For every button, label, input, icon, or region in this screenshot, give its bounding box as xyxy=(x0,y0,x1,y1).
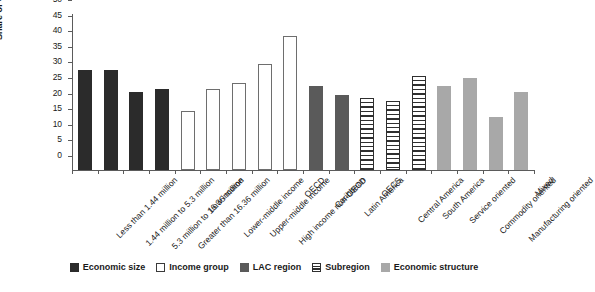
legend-label: LAC region xyxy=(253,262,302,272)
bar-slot xyxy=(155,14,169,170)
bar-slot xyxy=(129,14,143,170)
bar-slot xyxy=(489,14,503,170)
bar-slot xyxy=(437,14,451,170)
bar-slot xyxy=(232,14,246,170)
bar xyxy=(489,117,503,170)
legend-swatch-icon xyxy=(156,263,165,272)
bar xyxy=(104,70,118,170)
y-tick-label: 10 xyxy=(53,119,62,129)
x-tick-mark xyxy=(380,170,381,174)
x-tick-mark xyxy=(354,170,355,174)
legend-item: LAC region xyxy=(240,262,302,272)
y-tick-mark xyxy=(68,0,72,1)
x-tick-mark xyxy=(406,170,407,174)
bar xyxy=(258,64,272,170)
x-tick-mark xyxy=(431,170,432,174)
x-axis-labels: Less than 1.44 million1.44 million to 5.… xyxy=(72,175,534,255)
bar xyxy=(360,98,374,170)
y-tick-label: 15 xyxy=(53,103,62,113)
bar xyxy=(283,36,297,170)
bar xyxy=(386,101,400,170)
bar-slot xyxy=(78,14,92,170)
y-tick-label: 20 xyxy=(53,88,62,98)
bar xyxy=(514,92,528,170)
x-tick-mark xyxy=(303,170,304,174)
legend-swatch-icon xyxy=(381,263,390,272)
x-tick-mark xyxy=(149,170,150,174)
bar-slot xyxy=(412,14,426,170)
x-tick-mark xyxy=(200,170,201,174)
bar xyxy=(155,89,169,170)
y-tick-label: 45 xyxy=(53,10,62,20)
x-tick-mark xyxy=(277,170,278,174)
x-tick-mark xyxy=(457,170,458,174)
x-axis-label: Less than 1.44 million xyxy=(114,175,179,240)
legend-label: Subregion xyxy=(325,262,370,272)
bar-slot xyxy=(104,14,118,170)
legend-label: Income group xyxy=(169,262,229,272)
chart-legend: Economic sizeIncome groupLAC regionSubre… xyxy=(0,262,548,272)
legend-item: Income group xyxy=(156,262,229,272)
bar-series-container xyxy=(72,14,534,170)
bar-slot xyxy=(206,14,220,170)
bar xyxy=(78,70,92,170)
x-tick-mark xyxy=(329,170,330,174)
bar-slot xyxy=(258,14,272,170)
y-tick-label: 5 xyxy=(57,134,62,144)
x-axis-label: Caribbean xyxy=(332,175,367,210)
y-tick-label: 35 xyxy=(53,41,62,51)
y-tick-label: 40 xyxy=(53,25,62,35)
bar xyxy=(129,92,143,170)
legend-item: Economic structure xyxy=(381,262,479,272)
y-tick-label: 50 xyxy=(53,0,62,4)
x-tick-mark xyxy=(226,170,227,174)
bar xyxy=(335,95,349,170)
bar xyxy=(437,86,451,170)
x-tick-mark xyxy=(483,170,484,174)
legend-label: Economic size xyxy=(83,262,146,272)
x-tick-mark xyxy=(175,170,176,174)
bar xyxy=(181,111,195,170)
legend-item: Subregion xyxy=(312,262,370,272)
bar-slot xyxy=(386,14,400,170)
x-tick-mark xyxy=(123,170,124,174)
bar xyxy=(463,78,477,170)
y-tick-label: 30 xyxy=(53,56,62,66)
bar-slot xyxy=(463,14,477,170)
bar xyxy=(412,76,426,170)
bar xyxy=(309,86,323,170)
y-axis-ticks: 05101520253035404550 xyxy=(0,0,72,156)
legend-swatch-icon xyxy=(312,263,321,272)
y-tick-label: 0 xyxy=(57,150,62,160)
x-tick-mark xyxy=(72,170,73,174)
legend-item: Economic size xyxy=(70,262,146,272)
bar-slot xyxy=(309,14,323,170)
legend-swatch-icon xyxy=(70,263,79,272)
bar-slot xyxy=(283,14,297,170)
x-axis-label: Manufacturing oriented xyxy=(526,175,595,244)
x-tick-mark xyxy=(534,170,535,174)
bar-slot xyxy=(360,14,374,170)
bar-slot xyxy=(335,14,349,170)
legend-swatch-icon xyxy=(240,263,249,272)
y-tick-label: 25 xyxy=(53,72,62,82)
x-tick-mark xyxy=(252,170,253,174)
bar xyxy=(206,89,220,170)
legend-label: Economic structure xyxy=(394,262,479,272)
bar-slot xyxy=(181,14,195,170)
x-tick-mark xyxy=(98,170,99,174)
x-tick-mark xyxy=(508,170,509,174)
bar-slot xyxy=(514,14,528,170)
bar xyxy=(232,83,246,170)
